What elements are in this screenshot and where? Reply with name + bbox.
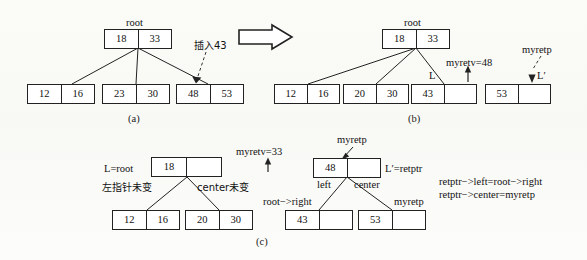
panel-b-label-L-prime: L′ (537, 70, 546, 81)
caption-a: (a) (128, 113, 140, 124)
panel-c-label-left: left (317, 179, 331, 190)
panel-c-right-leaf-0: 43 (285, 210, 353, 230)
panel-c-left-node-cell-0: 18 (152, 158, 186, 176)
panel-c-Lprime-eq-retptr: L′=retptr (385, 163, 422, 174)
panel-c-right-node-cell-0: 48 (314, 159, 347, 177)
panel-a-root-label: root (126, 17, 143, 28)
panel-b-myretv: myretv=48 (446, 57, 492, 68)
panel-c-note-center: center未变 (197, 183, 249, 194)
panel-a-leaf-0: 12 16 (27, 84, 95, 104)
panel-c-myretv: myretv=33 (236, 146, 282, 157)
panel-a-leaf-2-cell-1: 53 (210, 85, 244, 103)
panel-c-label-root-right: root−>right (263, 196, 312, 207)
panel-a-leaf-2: 48 53 (176, 84, 244, 104)
panel-b-leaf-1-cell-1: 30 (376, 85, 409, 103)
panel-c-left-leaf-0-cell-0: 12 (113, 211, 146, 229)
panel-c-right-leaf-1: 53 (358, 210, 426, 230)
panel-a-root-node: 18 33 (104, 29, 172, 49)
panel-b-leaf-2-cell-0: 43 (412, 85, 444, 103)
panel-b-leaf-3-cell-0: 53 (486, 85, 518, 103)
panel-c-L-eq-root: L=root (104, 163, 133, 174)
panel-b-leaf-3: 53 (485, 84, 551, 104)
figure-canvas: root 18 33 12 16 23 30 48 53 插入43 (a) ro… (0, 0, 587, 260)
panel-a-root-cell-1: 33 (138, 30, 172, 48)
panel-b-root-node: 18 33 (382, 29, 450, 49)
panel-c-right-leaf-1-cell-0: 53 (359, 211, 392, 229)
panel-c-note-left-pointer: 左指针未变 (102, 183, 152, 194)
myretv-arrow-head-c (265, 158, 271, 165)
panel-c-myretp-top: myretp (337, 134, 367, 145)
panel-c-left-node: 18 (151, 157, 222, 177)
caption-c: (c) (256, 236, 268, 247)
panel-a-leaf-0-cell-0: 12 (28, 85, 61, 103)
panel-c-left-leaf-1: 20 30 (185, 210, 253, 230)
panel-c-left-leaf-0-cell-1: 16 (146, 211, 180, 229)
panel-b-root-cell-0: 18 (383, 30, 416, 48)
panel-a-leaf-0-cell-1: 16 (61, 85, 95, 103)
panel-c-label-myretp-bottom: myretp (394, 196, 424, 207)
panel-b-root-cell-1: 33 (416, 30, 450, 48)
panel-b-leaf-1-cell-0: 20 (344, 85, 376, 103)
insert-note-label: 插入43 (194, 41, 227, 52)
panel-b-leaf-3-cell-1 (518, 85, 551, 103)
panel-c-code-line-2: retptr−>center=myretp (439, 189, 535, 200)
panel-b-label-L: L (429, 70, 435, 81)
panel-c-right-leaf-0-cell-0: 43 (286, 211, 319, 229)
transition-block-arrow (239, 25, 292, 49)
panel-a-leaf-1-cell-1: 30 (136, 85, 170, 103)
panel-c-right-leaf-0-cell-1 (319, 211, 353, 229)
panel-b-leaf-2: 43 (411, 84, 477, 104)
panel-c-code-line-1: retptr−>left=root−>right (439, 176, 542, 187)
myretp-arrow-b (528, 75, 535, 84)
panel-c-right-leaf-1-cell-1 (392, 211, 426, 229)
panel-c-right-node-cell-1 (347, 159, 381, 177)
panel-b-leaf-0-cell-1: 16 (307, 85, 340, 103)
panel-c-right-node: 48 (313, 158, 381, 178)
panel-c-left-leaf-1-cell-1: 30 (219, 211, 253, 229)
panel-c-left-leaf-1-cell-0: 20 (186, 211, 219, 229)
panel-a-root-cell-0: 18 (105, 30, 138, 48)
panel-c-left-node-cell-1 (186, 158, 221, 176)
panel-c-left-leaf-0: 12 16 (112, 210, 180, 230)
panel-a-leaf-1-cell-0: 23 (103, 85, 136, 103)
panel-b-root-label: root (404, 17, 421, 28)
panel-b-leaf-1: 20 30 (343, 84, 409, 104)
panel-a-leaf-1: 23 30 (102, 84, 170, 104)
caption-b: (b) (408, 113, 420, 124)
panel-b-myretp: myretp (522, 44, 552, 55)
myretp-leader-b (533, 56, 541, 69)
panel-a-leaf-2-cell-0: 48 (177, 85, 210, 103)
panel-b-leaf-0-cell-0: 12 (275, 85, 307, 103)
panel-b-leaf-0: 12 16 (274, 84, 340, 104)
panel-b-leaf-2-cell-1 (444, 85, 477, 103)
panel-c-label-center: center (354, 179, 380, 190)
